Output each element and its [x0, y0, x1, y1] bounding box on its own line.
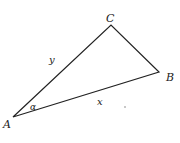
vertex-label-c: C [106, 12, 115, 25]
side-label-y: y [48, 54, 55, 65]
stray-dot [124, 106, 125, 107]
side-label-x: x [97, 96, 103, 107]
triangle-diagram: A B C y x α [0, 0, 180, 143]
angle-label-alpha: α [30, 102, 36, 112]
vertex-label-b: B [165, 71, 174, 84]
vertex-label-a: A [2, 118, 11, 131]
